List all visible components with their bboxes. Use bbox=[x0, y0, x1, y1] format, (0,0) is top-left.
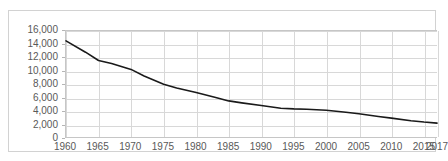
x-tick-label: 2005 bbox=[348, 141, 370, 153]
y-tick-label: 14,000 bbox=[27, 39, 58, 49]
x-tick-label: 2000 bbox=[315, 141, 337, 153]
series-line-svg bbox=[66, 31, 437, 137]
chart-figure-frame: 02,0004,0006,0008,00010,00012,00014,0001… bbox=[8, 10, 436, 152]
y-tick-label: 12,000 bbox=[27, 52, 58, 62]
y-tick-label: 16,000 bbox=[27, 25, 58, 35]
x-tick-label: 1990 bbox=[250, 141, 272, 153]
y-axis: 02,0004,0006,0008,00010,00012,00014,0001… bbox=[9, 30, 61, 138]
y-tick-mark bbox=[62, 138, 65, 139]
x-tick-label: 1970 bbox=[119, 141, 141, 153]
y-tick-label: 10,000 bbox=[27, 66, 58, 76]
x-tick-label: 1960 bbox=[54, 141, 76, 153]
y-tick-label: 2,000 bbox=[33, 120, 58, 130]
x-tick-label: 1980 bbox=[184, 141, 206, 153]
y-tick-label: 6,000 bbox=[33, 93, 58, 103]
y-tick-label: 4,000 bbox=[33, 106, 58, 116]
y-tick-label: 8,000 bbox=[33, 79, 58, 89]
x-tick-label: 1995 bbox=[282, 141, 304, 153]
x-axis: 1960196519701975198019851990199520002005… bbox=[65, 141, 437, 155]
x-tick-label: 1985 bbox=[217, 141, 239, 153]
plot-area bbox=[65, 30, 437, 138]
clipped-header-strip bbox=[0, 0, 444, 9]
x-tick-label: 1965 bbox=[87, 141, 109, 153]
x-tick-label: 2010 bbox=[380, 141, 402, 153]
x-tick-label: 1975 bbox=[152, 141, 174, 153]
x-tick-label: 2017 bbox=[426, 141, 448, 153]
series-1-line bbox=[66, 41, 437, 123]
gridline-vertical bbox=[438, 31, 439, 137]
